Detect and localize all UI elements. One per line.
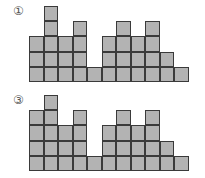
block-cell (58, 156, 73, 171)
block-cell (145, 125, 160, 140)
block-cell (116, 125, 131, 140)
block-cell (131, 125, 146, 140)
block-cell (102, 36, 117, 51)
block-cell (131, 52, 146, 67)
figure-label: ① (13, 4, 24, 18)
block-cell (174, 67, 189, 82)
block-cell (29, 52, 44, 67)
block-cell (102, 156, 117, 171)
block-cell (73, 52, 88, 67)
block-cell (44, 95, 59, 110)
figure-1: ① (0, 0, 205, 89)
block-cell (160, 156, 175, 171)
block-cell (160, 141, 175, 156)
block-cell (58, 125, 73, 140)
block-cell (29, 67, 44, 82)
block-cell (116, 110, 131, 125)
block-cell (44, 156, 59, 171)
block-cell (58, 36, 73, 51)
block-cell (58, 141, 73, 156)
block-cell (102, 141, 117, 156)
block-cell (29, 110, 44, 125)
block-cell (29, 156, 44, 171)
block-cell (44, 6, 59, 21)
block-cell (131, 156, 146, 171)
block-cell (58, 67, 73, 82)
block-cell (145, 141, 160, 156)
block-cell (73, 67, 88, 82)
block-cell (116, 36, 131, 51)
block-cell (87, 67, 102, 82)
block-cell (116, 21, 131, 36)
block-cell (29, 36, 44, 51)
block-cell (174, 156, 189, 171)
block-cell (58, 52, 73, 67)
block-cell (145, 21, 160, 36)
block-cell (73, 21, 88, 36)
block-cell (145, 110, 160, 125)
block-cell (44, 21, 59, 36)
block-cell (44, 125, 59, 140)
block-cell (116, 141, 131, 156)
block-cell (73, 36, 88, 51)
block-cell (131, 36, 146, 51)
figure-label: ③ (13, 93, 24, 107)
block-cell (145, 67, 160, 82)
block-cell (73, 141, 88, 156)
block-cell (160, 67, 175, 82)
block-cell (160, 52, 175, 67)
block-cell (44, 52, 59, 67)
block-cell (44, 141, 59, 156)
block-cell (44, 110, 59, 125)
block-cell (87, 156, 102, 171)
block-cell (73, 156, 88, 171)
block-cell (102, 67, 117, 82)
block-cell (73, 125, 88, 140)
block-cell (145, 52, 160, 67)
block-cell (145, 156, 160, 171)
block-cell (131, 67, 146, 82)
block-cell (44, 67, 59, 82)
block-cell (116, 67, 131, 82)
block-cell (73, 110, 88, 125)
block-cell (44, 36, 59, 51)
block-cell (145, 36, 160, 51)
block-cell (102, 125, 117, 140)
block-cell (102, 52, 117, 67)
block-cell (131, 141, 146, 156)
block-cell (29, 141, 44, 156)
figure-3: ③ (0, 89, 205, 178)
block-cell (116, 52, 131, 67)
block-cell (29, 125, 44, 140)
block-cell (116, 156, 131, 171)
